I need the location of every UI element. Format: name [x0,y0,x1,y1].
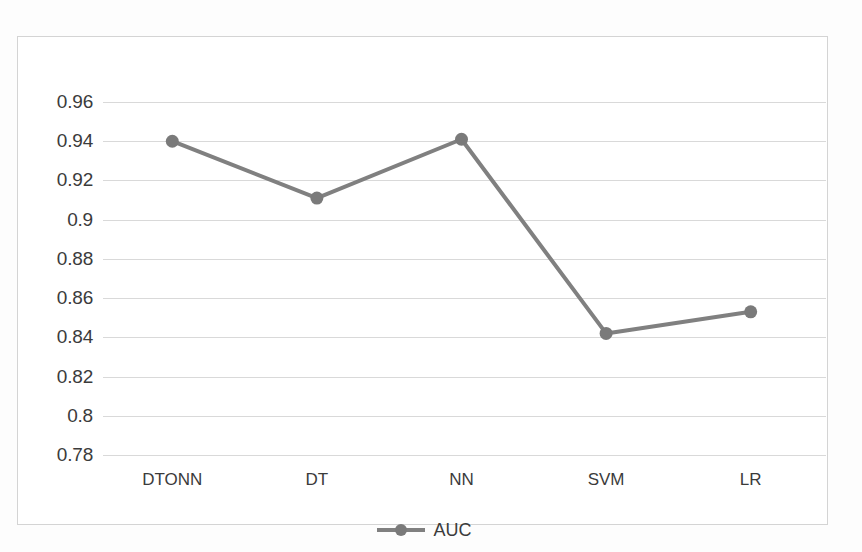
x-tick-label: NN [449,470,474,490]
plot-area [103,102,826,455]
x-tick-label: DTONN [142,470,202,490]
x-tick-label: LR [740,470,762,490]
y-tick-label: 0.84 [57,326,93,348]
y-tick-label: 0.86 [57,287,93,309]
data-point-marker [455,133,468,146]
x-tick-label: DT [306,470,329,490]
data-point-marker [744,305,757,318]
gridline [103,455,826,456]
y-tick-label: 0.96 [57,91,93,113]
y-tick-label: 0.82 [57,366,93,388]
y-axis-tick-labels: 0.960.940.920.90.880.860.840.820.80.78 [35,37,93,524]
series-line [172,139,750,333]
data-point-marker [600,327,613,340]
legend-marker-auc [375,521,427,539]
x-tick-label: SVM [588,470,625,490]
y-tick-label: 0.92 [57,169,93,191]
chart-legend: AUC [18,515,829,545]
y-tick-label: 0.8 [67,405,93,427]
chart-frame: 0.960.940.920.90.880.860.840.820.80.78 D… [17,36,828,525]
chart-container: 0.960.940.920.90.880.860.840.820.80.78 D… [0,0,862,552]
data-point-marker [166,135,179,148]
data-point-marker [310,192,323,205]
y-tick-label: 0.78 [57,444,93,466]
legend-label-auc: AUC [433,520,471,541]
series-auc [103,102,826,455]
y-tick-label: 0.94 [57,130,93,152]
x-axis-tick-labels: DTONNDTNNSVMLR [103,470,826,496]
y-tick-label: 0.88 [57,248,93,270]
y-tick-label: 0.9 [67,209,93,231]
